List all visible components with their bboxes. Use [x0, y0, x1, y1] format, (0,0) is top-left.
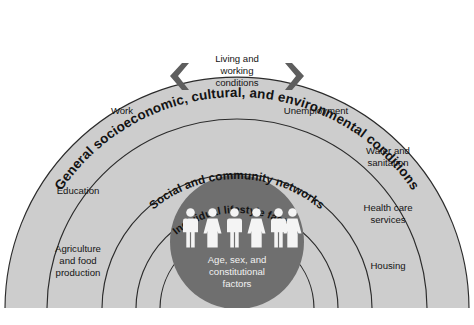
water-line-2: sanitation — [367, 157, 408, 168]
health-line-1: Health care — [363, 202, 412, 213]
side-label-health-care-services: Health care services — [363, 202, 412, 225]
unemployment-line-1: Unemployment — [284, 105, 349, 116]
side-label-education: Education — [57, 185, 100, 196]
label-living-and-working-conditions: Living and working conditions — [215, 53, 259, 88]
agriculture-line-3: production — [56, 267, 101, 278]
side-label-agriculture-and-food-production: Agriculture and food production — [55, 243, 101, 278]
health-line-2: services — [370, 214, 405, 225]
rainbow-model-diagram: General socioeconomic, cultural, and env… — [0, 0, 474, 325]
diagram-canvas: General socioeconomic, cultural, and env… — [0, 0, 474, 325]
living-line-2: working — [219, 65, 253, 76]
agriculture-line-1: Agriculture — [55, 243, 101, 254]
core-line-2: constitutional — [209, 266, 265, 277]
living-line-3: conditions — [215, 77, 258, 88]
side-label-water-and-sanitation: Water and sanitation — [366, 145, 410, 168]
housing-line-1: Housing — [370, 260, 405, 271]
side-label-unemployment: Unemployment — [284, 105, 349, 116]
side-label-housing: Housing — [370, 260, 405, 271]
agriculture-line-2: and food — [59, 255, 96, 266]
core-line-1: Age, sex, and — [208, 254, 267, 265]
core-line-3: factors — [223, 278, 252, 289]
living-line-1: Living and — [215, 53, 259, 64]
education-line-1: Education — [57, 185, 100, 196]
side-label-work: Work — [111, 105, 133, 116]
water-line-1: Water and — [366, 145, 410, 156]
work-line-1: Work — [111, 105, 133, 116]
